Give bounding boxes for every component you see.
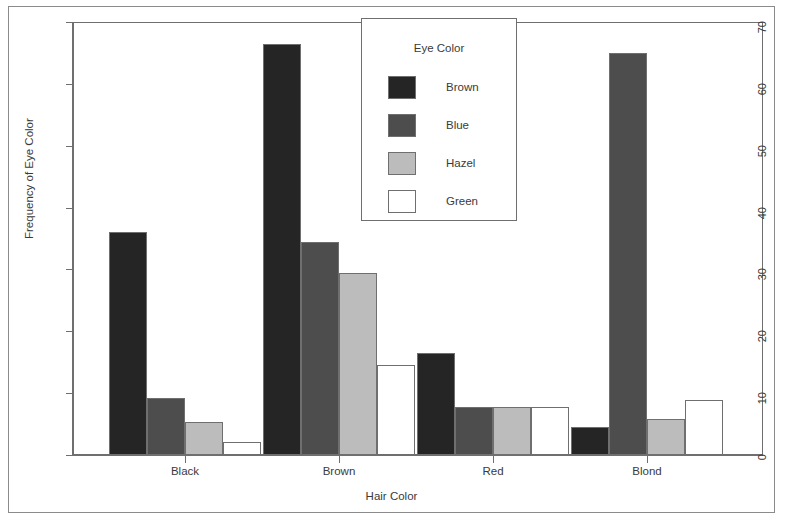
bar-black-green <box>223 442 261 455</box>
bar-blond-blue <box>609 53 647 455</box>
bar-blond-hazel <box>647 419 685 455</box>
bar-red-brown <box>417 353 455 455</box>
figure-frame: Frequency of Eye Color Hair Color Eye Co… <box>8 6 775 513</box>
bar-red-green <box>531 407 569 455</box>
y-axis-tick <box>66 269 73 270</box>
x-axis-line <box>73 455 763 456</box>
x-axis-tick-label-blond: Blond <box>632 465 661 477</box>
x-axis-tick <box>185 455 186 463</box>
y-axis-tick-label: 0 <box>756 454 768 460</box>
legend-label-hazel: Hazel <box>446 157 475 169</box>
y-axis-tick-label: 30 <box>756 268 768 280</box>
y-axis-tick <box>66 146 73 147</box>
y-axis-tick <box>66 393 73 394</box>
x-axis-tick-label-black: Black <box>171 465 199 477</box>
y-axis-tick-label: 50 <box>756 145 768 157</box>
bar-brown-green <box>377 365 415 455</box>
bar-blond-brown <box>571 427 609 455</box>
x-axis-tick <box>339 455 340 463</box>
x-axis <box>73 455 763 465</box>
legend-label-brown: Brown <box>446 81 479 93</box>
y-axis-title: Frequency of Eye Color <box>23 118 35 239</box>
legend-swatch-hazel <box>388 152 416 175</box>
x-axis-tick <box>647 455 648 463</box>
x-axis-tick <box>493 455 494 463</box>
y-axis-tick <box>66 84 73 85</box>
x-axis-tick-label-red: Red <box>482 465 503 477</box>
bar-black-brown <box>109 232 147 455</box>
legend-swatch-green <box>388 190 416 213</box>
bar-black-hazel <box>185 422 223 455</box>
legend-swatch-brown <box>388 76 416 99</box>
y-axis-tick <box>66 22 73 23</box>
y-axis-tick-label: 10 <box>756 392 768 404</box>
bar-black-blue <box>147 398 185 455</box>
y-axis-tick <box>66 455 73 456</box>
y-axis-tick <box>66 331 73 332</box>
bar-brown-blue <box>301 242 339 455</box>
chart-legend: Eye Color BrownBlueHazelGreen <box>361 18 517 221</box>
y-axis-tick-label: 60 <box>756 83 768 95</box>
bar-blond-green <box>685 400 723 455</box>
y-axis-tick-label: 40 <box>756 207 768 219</box>
legend-label-blue: Blue <box>446 119 469 131</box>
bar-brown-brown <box>263 44 301 455</box>
y-axis-tick <box>66 208 73 209</box>
x-axis-tick-label-brown: Brown <box>323 465 356 477</box>
legend-title: Eye Color <box>362 42 516 54</box>
y-axis-tick-label: 20 <box>756 330 768 342</box>
y-axis <box>65 22 73 455</box>
y-axis-tick-label: 70 <box>756 21 768 33</box>
bar-red-hazel <box>493 407 531 455</box>
bar-brown-hazel <box>339 273 377 455</box>
bar-red-blue <box>455 407 493 455</box>
legend-label-green: Green <box>446 195 478 207</box>
legend-swatch-blue <box>388 114 416 137</box>
x-axis-title: Hair Color <box>9 490 774 502</box>
